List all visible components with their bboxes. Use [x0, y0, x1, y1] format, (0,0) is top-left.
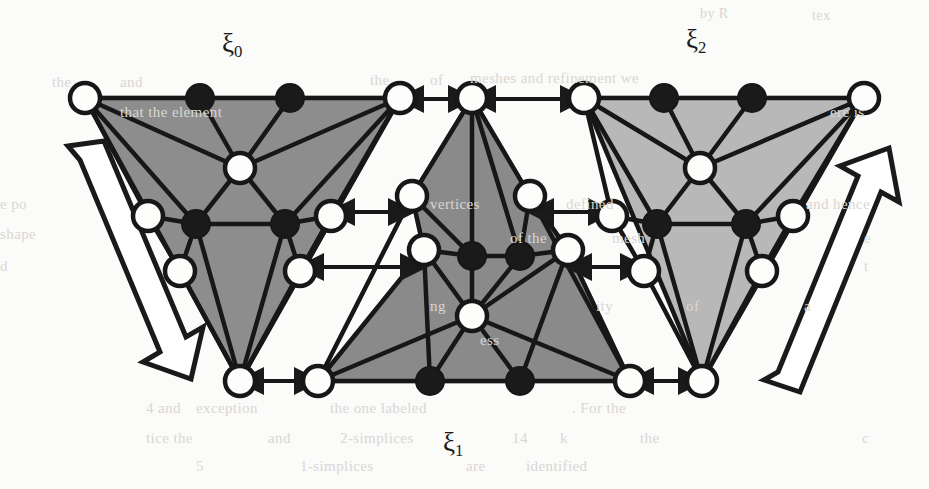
mesh-node-white-xi0-b0[interactable] — [225, 366, 255, 396]
mesh-node-black-xi2-t2[interactable] — [738, 84, 766, 112]
figure-root: texby Rtheandtheofmeshes and refinement … — [0, 0, 929, 489]
mesh-node-black-xi0-m1[interactable] — [182, 210, 210, 238]
mesh-node-white-xi1-c0[interactable] — [457, 301, 487, 331]
panel-label-xi0: ξ0 — [222, 28, 242, 62]
mesh-node-black-xi2-m2[interactable] — [732, 210, 760, 238]
mesh-node-white-xi1-apex[interactable] — [457, 83, 487, 113]
panel-label-subscript: 1 — [455, 441, 463, 460]
mesh-node-white-xi0-c0[interactable] — [225, 153, 255, 183]
mesh-node-black-xi1-b1[interactable] — [416, 367, 444, 395]
mesh-node-black-xi1-b2[interactable] — [506, 367, 534, 395]
mesh-node-black-xi1-m2[interactable] — [506, 242, 534, 270]
mesh-node-black-xi0-t1[interactable] — [186, 84, 214, 112]
mesh-node-black-xi0-m2[interactable] — [271, 210, 299, 238]
mesh-node-white-xi0-t3[interactable] — [385, 83, 415, 113]
mesh-node-black-xi0-t2[interactable] — [276, 84, 304, 112]
mesh-node-black-xi2-m1[interactable] — [643, 210, 671, 238]
mesh-node-white-xi1-u0[interactable] — [397, 181, 427, 211]
mesh-node-white-xi1-m3[interactable] — [553, 235, 583, 265]
mesh-node-white-xi2-t3[interactable] — [849, 83, 879, 113]
mesh-diagram-svg — [0, 0, 929, 489]
panel-label-symbol: ξ — [222, 28, 234, 58]
mesh-node-white-xi2-c0[interactable] — [685, 153, 715, 183]
mesh-node-white-xi0-l1[interactable] — [285, 256, 315, 286]
panel-label-symbol: ξ — [443, 427, 455, 457]
panel-label-xi1: ξ1 — [443, 427, 463, 461]
mesh-node-white-xi2-m0[interactable] — [597, 201, 627, 231]
mesh-node-white-xi1-b3[interactable] — [615, 366, 645, 396]
mesh-node-white-xi1-b0[interactable] — [303, 366, 333, 396]
mesh-node-white-xi0-m3[interactable] — [316, 201, 346, 231]
panel-label-xi2: ξ2 — [686, 24, 706, 58]
mesh-node-white-xi1-u1[interactable] — [515, 181, 545, 211]
mesh-node-white-xi0-t0[interactable] — [70, 83, 100, 113]
mesh-node-white-xi1-m0[interactable] — [409, 235, 439, 265]
mesh-node-white-xi2-l1[interactable] — [747, 256, 777, 286]
mesh-node-white-xi0-l0[interactable] — [165, 256, 195, 286]
mesh-node-black-xi1-m1[interactable] — [458, 242, 486, 270]
mesh-node-white-xi2-l0[interactable] — [629, 256, 659, 286]
mesh-node-white-xi2-t0[interactable] — [569, 83, 599, 113]
mesh-node-white-xi0-m0[interactable] — [133, 201, 163, 231]
mesh-node-white-xi2-m3[interactable] — [778, 201, 808, 231]
panel-label-subscript: 2 — [698, 38, 706, 57]
panel-label-subscript: 0 — [234, 42, 242, 61]
mesh-node-black-xi2-t1[interactable] — [650, 84, 678, 112]
mesh-node-white-xi2-b0[interactable] — [687, 366, 717, 396]
panel-label-symbol: ξ — [686, 24, 698, 54]
